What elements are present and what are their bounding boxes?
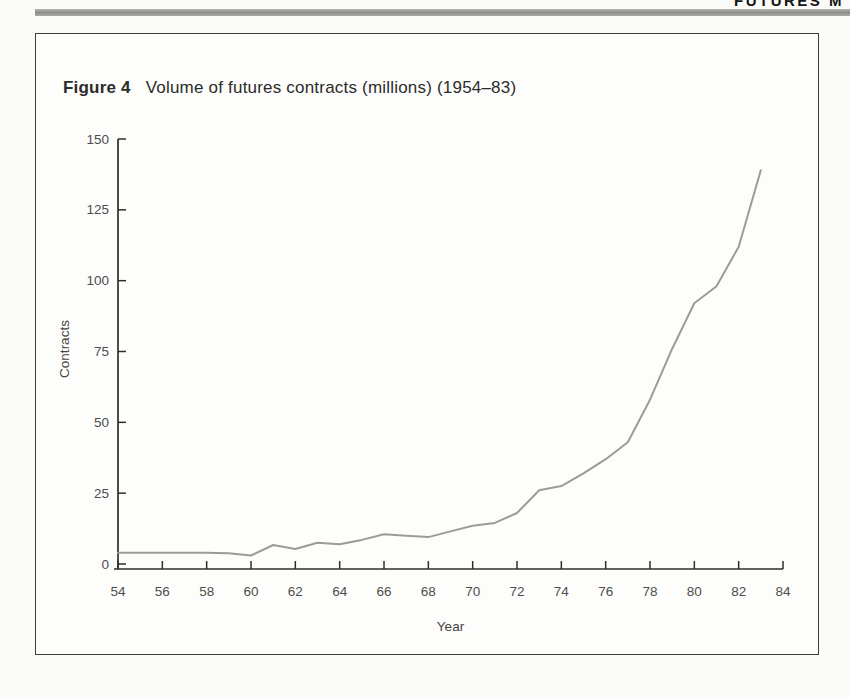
data-line: [118, 170, 761, 555]
x-axis-tick-label: 74: [554, 584, 570, 599]
x-axis-tick-label: 72: [509, 584, 524, 599]
x-axis-tick-label: 82: [731, 584, 746, 599]
x-axis-tick-label: 68: [421, 584, 436, 599]
y-axis-tick-label: 100: [86, 273, 109, 288]
x-axis-tick-label: 58: [199, 584, 214, 599]
running-head-text: FUTURES M: [734, 0, 844, 8]
x-axis-tick-label: 76: [598, 584, 613, 599]
y-axis-tick-label: 25: [94, 486, 109, 501]
y-axis-title: Contracts: [57, 320, 72, 378]
figure-box: Figure 4Volume of futures contracts (mil…: [35, 33, 819, 655]
page: { "page": { "running_head": "FUTURES M",…: [0, 0, 850, 697]
x-axis-tick-label: 56: [155, 584, 170, 599]
x-axis-tick-label: 60: [243, 584, 258, 599]
x-axis-tick-label: 70: [465, 584, 480, 599]
x-axis-title: Year: [437, 619, 465, 634]
x-axis-tick-label: 84: [775, 584, 791, 599]
y-axis-tick-label: 0: [101, 557, 109, 572]
x-axis-tick-label: 78: [642, 584, 657, 599]
y-axis-tick-label: 75: [94, 344, 109, 359]
x-axis-tick-label: 64: [332, 584, 348, 599]
running-head: FUTURES M: [674, 0, 844, 8]
y-axis-tick-label: 150: [86, 132, 109, 147]
x-axis-tick-label: 66: [376, 584, 391, 599]
x-axis-tick-label: 80: [687, 584, 702, 599]
y-axis-tick-label: 125: [86, 202, 109, 217]
x-axis-tick-label: 62: [288, 584, 303, 599]
line-chart: 0255075100125150545658606264666870727476…: [36, 34, 820, 656]
x-axis-tick-label: 54: [110, 584, 126, 599]
y-axis-tick-label: 50: [94, 415, 109, 430]
top-rule: [35, 9, 850, 16]
